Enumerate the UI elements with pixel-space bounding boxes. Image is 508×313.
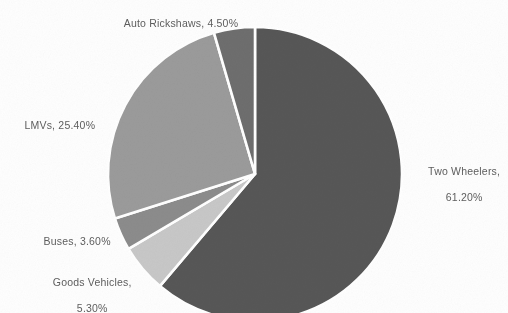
slice-label-goods-vehicles-line2: 5.30% bbox=[77, 302, 108, 313]
slice-label-lmvs-text: LMVs, 25.40% bbox=[24, 119, 95, 131]
slice-label-lmvs: LMVs, 25.40% bbox=[12, 106, 122, 145]
slice-label-auto-rickshaws-text: Auto Rickshaws, 4.50% bbox=[124, 17, 239, 29]
slice-label-buses: Buses, 3.60% bbox=[31, 222, 141, 261]
slice-label-goods-vehicles: Goods Vehicles, 5.30% bbox=[26, 263, 146, 313]
slice-label-goods-vehicles-line1: Goods Vehicles, bbox=[53, 276, 132, 288]
slice-label-two-wheelers-line2: 61.20% bbox=[446, 191, 483, 203]
slice-label-two-wheelers-line1: Two Wheelers, bbox=[428, 165, 500, 177]
slice-label-auto-rickshaws: Auto Rickshaws, 4.50% bbox=[85, 4, 265, 43]
pie-slice-group bbox=[108, 27, 402, 313]
slice-label-two-wheelers: Two Wheelers, 61.20% bbox=[410, 152, 506, 217]
slice-label-buses-text: Buses, 3.60% bbox=[43, 235, 110, 247]
pie-chart-figure: Auto Rickshaws, 4.50% LMVs, 25.40% Buses… bbox=[0, 0, 508, 313]
